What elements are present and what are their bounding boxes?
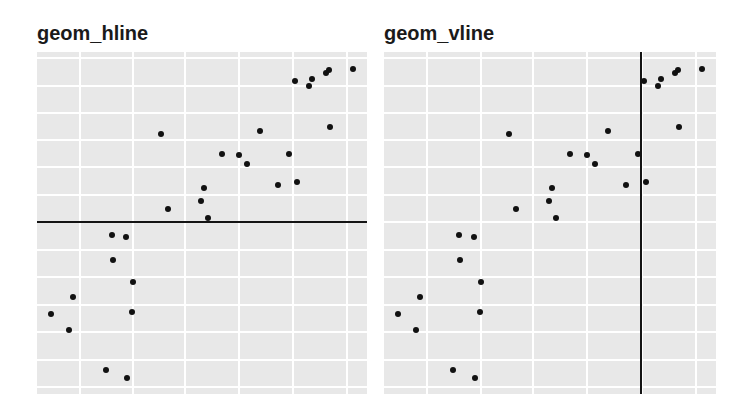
gridline-horizontal [37,112,367,114]
data-point [292,78,298,84]
data-point [66,327,72,333]
data-point [205,215,211,221]
data-point [699,66,705,72]
data-point [158,131,164,137]
plot-panel-vline [384,52,716,394]
data-point [327,124,333,130]
data-point [676,124,682,130]
data-point [306,83,312,89]
data-point [110,257,116,263]
gridline-horizontal [384,331,716,333]
gridline-horizontal [384,304,716,306]
gridline-vertical [426,52,428,394]
data-point [326,67,332,73]
data-point [130,279,136,285]
data-point [584,152,590,158]
data-point [567,151,573,157]
gridline-horizontal [37,166,367,168]
data-point [592,161,598,167]
data-point [675,67,681,73]
data-point [456,232,462,238]
gridline-horizontal [384,112,716,114]
data-point [201,185,207,191]
data-point [257,128,263,134]
data-point [286,151,292,157]
data-point [457,257,463,263]
data-point [450,367,456,373]
gridline-horizontal [37,331,367,333]
vertical-reference-line [640,52,642,394]
data-point [350,66,356,72]
data-point [48,311,54,317]
gridline-vertical [79,52,81,394]
gridline-horizontal [37,194,367,196]
data-point [658,76,664,82]
data-point [477,309,483,315]
data-point [294,179,300,185]
gridline-vertical [695,52,697,394]
gridline-horizontal [384,221,716,223]
gridline-vertical [132,52,134,394]
gridline-vertical [292,52,294,394]
data-point [513,206,519,212]
gridline-horizontal [384,276,716,278]
gridline-vertical [586,52,588,394]
data-point [124,375,130,381]
gridline-horizontal [384,85,716,87]
data-point [471,234,477,240]
data-point [70,294,76,300]
data-point [309,76,315,82]
chart-title-hline: geom_hline [37,22,148,45]
gridline-horizontal [37,276,367,278]
gridline-vertical [480,52,482,394]
data-point [236,152,242,158]
data-point [109,232,115,238]
gridline-horizontal [37,386,367,388]
data-point [605,128,611,134]
gridline-horizontal [384,359,716,361]
data-point [103,367,109,373]
data-point [549,185,555,191]
gridline-vertical [238,52,240,394]
data-point [623,182,629,188]
gridline-horizontal [384,57,716,59]
data-point [506,131,512,137]
data-point [655,83,661,89]
gridline-horizontal [37,85,367,87]
data-point [198,198,204,204]
data-point [165,206,171,212]
data-point [129,309,135,315]
horizontal-reference-line [37,221,367,223]
gridline-horizontal [37,249,367,251]
gridline-horizontal [37,359,367,361]
data-point [417,294,423,300]
data-point [472,375,478,381]
data-point [395,311,401,317]
gridline-vertical [532,52,534,394]
gridline-horizontal [384,249,716,251]
data-point [643,179,649,185]
gridline-horizontal [384,194,716,196]
data-point [123,234,129,240]
data-point [478,279,484,285]
gridline-horizontal [37,139,367,141]
chart-title-vline: geom_vline [384,22,494,45]
gridline-vertical [346,52,348,394]
data-point [546,198,552,204]
gridline-vertical [184,52,186,394]
gridline-horizontal [384,139,716,141]
data-point [275,182,281,188]
gridline-horizontal [37,57,367,59]
gridline-horizontal [384,386,716,388]
gridline-horizontal [384,166,716,168]
data-point [219,151,225,157]
data-point [244,161,250,167]
plot-panel-hline [37,52,367,394]
data-point [553,215,559,221]
gridline-horizontal [37,304,367,306]
